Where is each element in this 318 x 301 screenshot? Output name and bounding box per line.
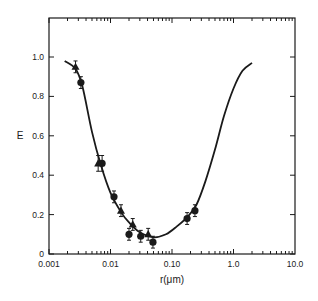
- circle-marker: [98, 160, 105, 167]
- chart: 0.0010.010.101.010.0 00.20.40.60.81.0 r(…: [0, 0, 318, 301]
- y-tick-label: 1.0: [32, 52, 44, 62]
- plot-frame: [49, 18, 295, 254]
- y-tick-label: 0.8: [32, 91, 44, 101]
- circle-marker: [191, 207, 198, 214]
- circle-marker: [77, 79, 84, 86]
- x-tick-label: 0.01: [102, 259, 119, 269]
- y-tick-label: 0.6: [32, 131, 44, 141]
- y-tick-label: 0.2: [32, 210, 44, 220]
- circle-marker: [183, 215, 190, 222]
- data-points: [72, 61, 199, 248]
- circle-marker: [110, 193, 117, 200]
- y-tick-label: 0.4: [32, 170, 44, 180]
- x-axis-label: r(μm): [160, 274, 184, 285]
- circle-marker: [125, 231, 132, 238]
- x-tick-label: 1.0: [228, 259, 240, 269]
- fit-curve: [65, 61, 252, 237]
- circle-marker: [137, 233, 144, 240]
- x-tick-label: 10.0: [287, 259, 304, 269]
- y-axis-label: E: [17, 130, 24, 141]
- y-tick-label: 0: [39, 249, 44, 259]
- y-axis: 00.20.40.60.81.0: [32, 52, 295, 259]
- x-tick-label: 0.001: [38, 259, 60, 269]
- circle-marker: [149, 239, 156, 246]
- x-tick-label: 0.10: [164, 259, 181, 269]
